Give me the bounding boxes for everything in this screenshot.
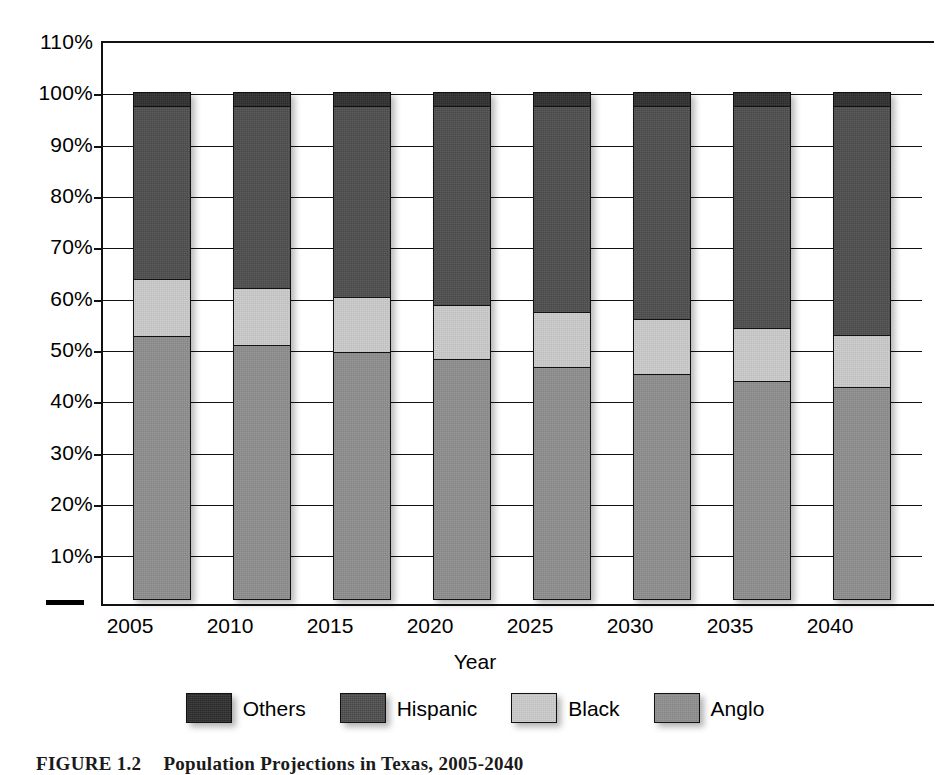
bar-segment-hispanic-2030[interactable]: [633, 106, 691, 321]
y-tick-label: 70%: [7, 236, 93, 257]
bar-segment-anglo-2005[interactable]: [133, 336, 191, 600]
bar-column-2025[interactable]: [533, 41, 591, 605]
gridline-80: [103, 197, 922, 198]
bar-column-2005[interactable]: [133, 41, 191, 605]
y-tick-label: 30%: [7, 442, 93, 463]
y-tick-mark: [94, 351, 103, 353]
y-tick-mark: [94, 505, 103, 507]
legend-label: Black: [568, 698, 619, 719]
legend-label: Hispanic: [397, 698, 478, 719]
x-tick-label-2035: 2035: [685, 615, 775, 636]
bar-segment-black-2015[interactable]: [333, 297, 391, 354]
bar-segment-black-2025[interactable]: [533, 312, 591, 369]
bar-column-2035[interactable]: [733, 41, 791, 605]
y-tick-mark: [94, 146, 103, 148]
legend-item-others[interactable]: Others: [186, 693, 306, 723]
top-rule-extension: [920, 41, 934, 43]
gridline-40: [103, 402, 922, 403]
bar-segment-hispanic-2035[interactable]: [733, 106, 791, 329]
y-tick-label: 20%: [7, 493, 93, 514]
y-tick-label: 40%: [7, 390, 93, 411]
chart-legend: OthersHispanicBlackAnglo: [0, 688, 950, 728]
bar-segment-anglo-2040[interactable]: [833, 387, 891, 600]
bar-segment-black-2020[interactable]: [433, 305, 491, 360]
plot-area: [101, 41, 920, 605]
bar-column-2010[interactable]: [233, 41, 291, 605]
bar-segment-anglo-2035[interactable]: [733, 381, 791, 600]
gridline-60: [103, 300, 922, 301]
legend-swatch-black: [511, 693, 557, 723]
bar-segment-hispanic-2040[interactable]: [833, 106, 891, 336]
x-tick-label-2040: 2040: [785, 615, 875, 636]
y-tick-label: 80%: [7, 185, 93, 206]
legend-item-anglo[interactable]: Anglo: [654, 693, 765, 723]
bar-segment-black-2005[interactable]: [133, 279, 191, 338]
stacked-bar[interactable]: [833, 92, 891, 605]
y-axis-baseline-dash: [46, 600, 84, 605]
x-axis-line: [101, 604, 934, 606]
x-tick-label-2025: 2025: [485, 615, 575, 636]
bar-segment-anglo-2025[interactable]: [533, 367, 591, 600]
y-tick-label: 90%: [7, 134, 93, 155]
bar-segment-anglo-2015[interactable]: [333, 352, 391, 600]
legend-swatch-others: [186, 693, 232, 723]
y-tick-label: 60%: [7, 288, 93, 309]
stacked-bar[interactable]: [533, 92, 591, 605]
figure-caption-text: Population Projections in Texas, 2005-20…: [163, 753, 523, 774]
bar-segment-anglo-2020[interactable]: [433, 359, 491, 600]
x-tick-label-2015: 2015: [285, 615, 375, 636]
bar-segment-anglo-2010[interactable]: [233, 345, 291, 600]
gridline-50: [103, 351, 922, 352]
gridline-20: [103, 505, 922, 506]
bar-column-2015[interactable]: [333, 41, 391, 605]
gridline-10: [103, 556, 922, 557]
y-tick-mark: [94, 248, 103, 250]
bar-segment-black-2035[interactable]: [733, 328, 791, 383]
x-tick-label-2005: 2005: [85, 615, 175, 636]
stacked-bar[interactable]: [633, 92, 691, 605]
stacked-bar[interactable]: [333, 92, 391, 605]
gridline-100: [103, 94, 922, 95]
gridline-90: [103, 146, 922, 147]
y-tick-mark: [94, 454, 103, 456]
stacked-bar[interactable]: [433, 92, 491, 605]
bar-segment-hispanic-2010[interactable]: [233, 106, 291, 290]
legend-swatch-hispanic: [340, 693, 386, 723]
legend-swatch-anglo: [654, 693, 700, 723]
legend-item-black[interactable]: Black: [511, 693, 619, 723]
bar-segment-hispanic-2025[interactable]: [533, 106, 591, 313]
y-tick-label: 100%: [7, 82, 93, 103]
stacked-bar[interactable]: [233, 92, 291, 605]
gridline-70: [103, 248, 922, 249]
y-tick-label: 110%: [7, 31, 93, 52]
gridline-30: [103, 454, 922, 455]
bar-segment-black-2040[interactable]: [833, 335, 891, 389]
bar-column-2030[interactable]: [633, 41, 691, 605]
bar-segment-black-2010[interactable]: [233, 288, 291, 346]
bar-segment-black-2030[interactable]: [633, 319, 691, 375]
y-tick-mark: [94, 197, 103, 199]
legend-item-hispanic[interactable]: Hispanic: [340, 693, 478, 723]
legend-label: Others: [243, 698, 306, 719]
y-tick-label: 50%: [7, 339, 93, 360]
x-axis-title: Year: [0, 650, 950, 674]
figure-number: FIGURE 1.2: [36, 753, 141, 774]
x-tick-label-2030: 2030: [585, 615, 675, 636]
y-tick-mark: [94, 94, 103, 96]
x-tick-label-2020: 2020: [385, 615, 475, 636]
bar-segment-hispanic-2005[interactable]: [133, 106, 191, 280]
bar-column-2020[interactable]: [433, 41, 491, 605]
y-tick-mark: [94, 402, 103, 404]
x-tick-label-2010: 2010: [185, 615, 275, 636]
bar-column-2040[interactable]: [833, 41, 891, 605]
legend-label: Anglo: [711, 698, 765, 719]
y-tick-mark: [94, 556, 103, 558]
bar-segment-anglo-2030[interactable]: [633, 374, 691, 600]
bar-segment-hispanic-2015[interactable]: [333, 106, 391, 298]
figure-caption: FIGURE 1.2Population Projections in Texa…: [36, 753, 916, 775]
stacked-bar[interactable]: [733, 92, 791, 605]
stacked-bar[interactable]: [133, 92, 191, 605]
bar-segment-hispanic-2020[interactable]: [433, 106, 491, 307]
y-tick-mark: [94, 300, 103, 302]
